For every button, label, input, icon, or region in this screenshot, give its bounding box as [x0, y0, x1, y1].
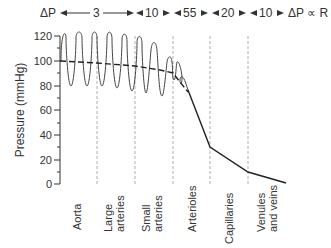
resistance-header: ΔP 3 10 55 20 10 ΔP ∝ R — [40, 6, 328, 20]
header-suffix: ΔP ∝ R — [288, 6, 328, 20]
category-small-arteries-1: Small — [140, 204, 152, 232]
y-tick-100: 100 — [34, 55, 52, 67]
pressure-chart: ΔP 3 10 55 20 10 ΔP ∝ R — [0, 0, 331, 248]
category-aorta: Aorta — [71, 203, 83, 230]
nonpulsatile-pressure-line — [188, 90, 286, 183]
y-axis-label: Pressure (mmHg) — [13, 63, 27, 158]
category-venules-1: Venules — [255, 192, 267, 232]
y-tick-80: 80 — [40, 80, 52, 92]
category-arterioles: Arterioles — [186, 185, 198, 232]
category-large-arteries-2: arteries — [114, 195, 126, 232]
category-large-arteries-1: Large — [102, 204, 114, 232]
category-capillaries: Capillaries — [223, 192, 235, 244]
mean-pressure-line — [60, 61, 188, 92]
segment-dividers — [97, 36, 248, 184]
category-small-arteries-2: arteries — [152, 195, 164, 232]
header-seg-3: 55 — [183, 6, 197, 20]
y-tick-120: 120 — [34, 30, 52, 42]
header-prefix: ΔP — [40, 6, 56, 20]
y-tick-0: 0 — [46, 178, 52, 190]
x-category-labels: Aorta Large arteries Small arteries Arte… — [71, 184, 279, 244]
category-venules-2: and veins — [267, 184, 279, 232]
header-seg-4: 20 — [221, 6, 235, 20]
y-axis: 120 100 80 60 40 20 0 Pressure (mmHg) — [13, 30, 60, 190]
header-seg-2: 10 — [145, 6, 159, 20]
header-seg-1: 3 — [93, 6, 100, 20]
y-tick-20: 20 — [40, 154, 52, 166]
y-tick-60: 60 — [40, 104, 52, 116]
header-seg-5: 10 — [259, 6, 273, 20]
y-tick-40: 40 — [40, 129, 52, 141]
pulsatile-pressure-line — [61, 32, 188, 96]
